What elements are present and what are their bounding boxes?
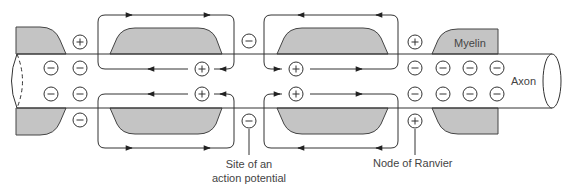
negative-charge-icon xyxy=(242,34,256,48)
negative-charge-icon xyxy=(463,61,477,75)
site-label-line-2: action potential xyxy=(208,171,290,185)
axon-left-cap-back xyxy=(17,54,23,108)
myelin-segment-2-bottom xyxy=(277,108,388,134)
myelin-left-bottom xyxy=(16,108,66,135)
myelin-segment-1-top xyxy=(110,28,222,54)
negative-charge-icon xyxy=(242,114,256,128)
negative-charge-icon xyxy=(463,87,477,101)
site-label-line-1: Site of an xyxy=(208,157,290,171)
negative-charge-icon xyxy=(44,87,58,101)
negative-charge-icon xyxy=(408,87,422,101)
axon-left-cap-front xyxy=(12,54,18,108)
negative-charge-icon xyxy=(44,61,58,75)
myelin-sheaths xyxy=(16,27,498,135)
myelin-segment-2-top xyxy=(277,28,388,54)
negative-charge-icon xyxy=(408,61,422,75)
positive-charge-icon xyxy=(195,62,209,76)
negative-charge-icon xyxy=(73,61,87,75)
negative-charge-icon xyxy=(73,113,87,127)
axon-right-cap xyxy=(543,54,561,108)
node-of-ranvier-label: Node of Ranvier xyxy=(373,157,453,169)
site-of-action-potential-label: Site of an action potential xyxy=(208,157,290,185)
negative-charge-icon xyxy=(490,87,504,101)
positive-charge-icon xyxy=(289,62,303,76)
negative-charge-icon xyxy=(436,61,450,75)
negative-charge-icon xyxy=(73,87,87,101)
positive-charge-icon xyxy=(73,35,87,49)
positive-charge-icon xyxy=(289,87,303,101)
myelin-right-bottom xyxy=(432,108,498,134)
positive-charge-icon xyxy=(195,87,209,101)
myelin-segment-1-bottom xyxy=(110,108,222,134)
myelin-label: Myelin xyxy=(454,37,486,49)
positive-charge-icon xyxy=(408,35,422,49)
axon-label: Axon xyxy=(511,75,536,87)
myelin-left-top xyxy=(16,27,66,54)
negative-charge-icon xyxy=(490,61,504,75)
axon-tube xyxy=(12,54,562,108)
positive-charge-icon xyxy=(408,114,422,128)
negative-charge-icon xyxy=(436,87,450,101)
